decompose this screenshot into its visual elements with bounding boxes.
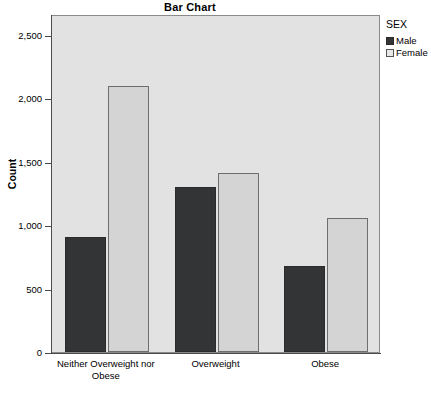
y-tick-2000 [45, 99, 51, 100]
y-tick-0 [45, 353, 51, 354]
legend-item-female[interactable]: Female [386, 47, 431, 58]
y-tick-label-2500: 2,500 [18, 31, 42, 41]
bars-layer [52, 16, 379, 352]
legend-item-male[interactable]: Male [386, 35, 431, 46]
bar-male-0 [65, 237, 106, 352]
y-tick-label-2000: 2,000 [18, 94, 42, 104]
plot-area [51, 15, 380, 353]
legend-label-male: Male [396, 35, 417, 46]
x-axis-line [51, 353, 381, 354]
y-tick-500 [45, 290, 51, 291]
chart-title: Bar Chart [0, 0, 380, 14]
y-axis-title: Count [6, 144, 18, 204]
legend-swatch-female-icon [386, 49, 394, 57]
legend-title: SEX [386, 18, 431, 31]
y-tick-2500 [45, 36, 51, 37]
y-axis-line [51, 15, 52, 354]
y-tick-1500 [45, 163, 51, 164]
legend: SEX MaleFemale [386, 18, 431, 59]
y-tick-label-0: 0 [37, 348, 42, 358]
bar-female-1 [218, 173, 259, 352]
y-tick-label-1000: 1,000 [18, 221, 42, 231]
x-category-label-2: Obese [260, 358, 390, 370]
legend-swatch-male-icon [386, 37, 394, 45]
bar-chart: Bar Chart 05001,0001,5002,0002,500 Count… [0, 0, 431, 398]
bar-male-1 [175, 187, 216, 352]
bar-female-2 [327, 218, 368, 352]
bar-male-2 [284, 266, 325, 352]
legend-entries: MaleFemale [386, 35, 431, 58]
legend-label-female: Female [396, 47, 428, 58]
bar-female-0 [108, 86, 149, 352]
y-tick-1000 [45, 226, 51, 227]
y-tick-label-500: 500 [26, 285, 42, 295]
y-tick-label-1500: 1,500 [18, 158, 42, 168]
